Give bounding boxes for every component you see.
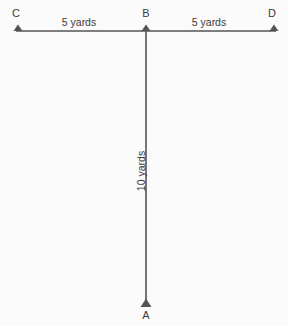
vertex-label-c: C	[8, 7, 24, 19]
segment-length-label-cb: 5 yards	[48, 16, 110, 28]
vertex-label-b: B	[138, 7, 154, 19]
triangle-up-marker-a	[141, 299, 152, 308]
segment-length-label-bd: 5 yards	[178, 16, 240, 28]
geometry-diagram: C B D A 5 yards 5 yards 10 yards	[0, 0, 288, 326]
triangle-up-marker-d	[270, 25, 279, 32]
segment-length-label-ab: 10 yards	[135, 140, 147, 202]
vertex-label-d: D	[264, 7, 280, 19]
triangle-up-marker-c	[14, 25, 23, 32]
vertex-label-a: A	[138, 309, 154, 321]
triangle-up-marker-b	[142, 25, 151, 32]
